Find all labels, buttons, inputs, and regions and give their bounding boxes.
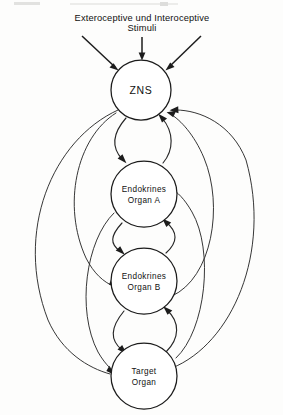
arc-target-organ-to-zns xyxy=(170,106,254,368)
node-endocrine-organ-a-label-line1: Endokrines xyxy=(122,185,166,194)
stimulus-center-arrow xyxy=(139,37,146,61)
node-zns[interactable]: ZNS xyxy=(111,60,171,120)
diagram-canvas: Exteroceptive und Interoceptive Stimuli xyxy=(0,0,283,415)
arrow-target-organ-to-endocrine-organ-b xyxy=(163,306,176,352)
arrow-endocrine-organ-a-to-zns xyxy=(158,114,171,163)
node-target-organ[interactable]: Target Organ xyxy=(111,343,177,409)
scan-artifact-top xyxy=(14,2,178,6)
node-target-organ-circle[interactable] xyxy=(111,343,177,409)
node-endocrine-organ-b[interactable]: Endokrines Organ B xyxy=(111,248,177,314)
node-endocrine-organ-a[interactable]: Endokrines Organ A xyxy=(111,161,177,227)
stimulus-left-arrow xyxy=(82,36,119,70)
arc-zns-to-target-organ xyxy=(35,110,118,375)
stimuli-caption: Exteroceptive und Interoceptive Stimuli xyxy=(75,13,210,33)
long-arc-group-right xyxy=(167,106,254,368)
node-endocrine-organ-b-circle[interactable] xyxy=(111,248,177,314)
stimuli-caption-line2: Stimuli xyxy=(128,23,157,33)
arrow-endocrine-organ-b-to-target-organ xyxy=(113,311,126,354)
node-endocrine-organ-a-label-line2: Organ A xyxy=(128,196,161,205)
neuroendocrine-feedback-diagram: Exteroceptive und Interoceptive Stimuli xyxy=(0,0,283,415)
arrow-endocrine-organ-a-to-endocrine-organ-b xyxy=(113,223,125,255)
arrow-zns-to-endocrine-organ-a xyxy=(115,118,126,163)
node-target-organ-label-line2: Organ xyxy=(132,378,157,387)
stimulus-right-arrow xyxy=(165,36,201,70)
node-target-organ-label-line1: Target xyxy=(132,367,157,376)
node-endocrine-organ-b-label-line1: Endokrines xyxy=(122,272,166,281)
stimuli-caption-line1: Exteroceptive und Interoceptive xyxy=(75,13,210,23)
long-arc-group-left xyxy=(35,110,125,379)
link-zns-endocrine-organ-a xyxy=(115,114,171,163)
arrow-endocrine-organ-b-to-endocrine-organ-a xyxy=(162,218,175,253)
node-endocrine-organ-a-circle[interactable] xyxy=(111,161,177,227)
node-zns-label: ZNS xyxy=(129,84,152,96)
node-endocrine-organ-b-label-line2: Organ B xyxy=(128,283,161,292)
